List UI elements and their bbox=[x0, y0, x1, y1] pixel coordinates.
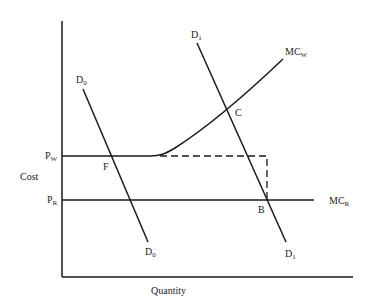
d1-line bbox=[197, 43, 286, 242]
mcw-curve bbox=[62, 59, 283, 156]
pr-label: PR bbox=[47, 194, 58, 207]
d0-top-label: D0 bbox=[76, 74, 87, 87]
point-c-label: C bbox=[235, 107, 242, 118]
d1-bottom-label: D1 bbox=[285, 248, 296, 261]
x-axis-label: Quantity bbox=[151, 285, 186, 296]
point-b-label: B bbox=[258, 204, 265, 215]
mcr-label: MCR bbox=[329, 195, 350, 208]
d1-top-label: D1 bbox=[191, 29, 202, 42]
point-f-label: F bbox=[103, 161, 109, 172]
supply-demand-diagram: Cost Quantity PW PR D0 D0 D1 D1 MCW MCR … bbox=[0, 0, 370, 308]
d0-bottom-label: D0 bbox=[145, 246, 156, 259]
mcw-label: MCW bbox=[285, 46, 308, 59]
y-axis-label: Cost bbox=[20, 171, 39, 182]
d0-line bbox=[83, 89, 148, 242]
pw-label: PW bbox=[45, 150, 58, 163]
